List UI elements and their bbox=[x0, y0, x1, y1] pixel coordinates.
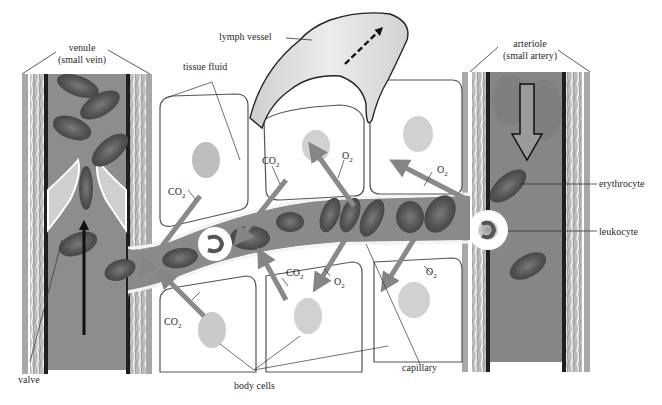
co2-label: CO2 bbox=[286, 267, 303, 283]
lower-body-cells bbox=[160, 258, 462, 372]
o2-label: O2 bbox=[334, 276, 345, 292]
arteriole-label: arteriole (small artery) bbox=[490, 38, 570, 62]
venule-label: venule (small vein) bbox=[42, 42, 122, 66]
capillary-exchange-diagram: venule (small vein) tissue fluid lymph v… bbox=[0, 0, 662, 405]
venule bbox=[22, 50, 152, 374]
arteriole bbox=[462, 47, 597, 372]
valve-label: valve bbox=[18, 374, 40, 386]
leukocyte-label: leukocyte bbox=[599, 226, 638, 238]
arteriole-label-line2: (small artery) bbox=[490, 50, 570, 62]
venule-label-line2: (small vein) bbox=[42, 54, 122, 66]
o2-label: O2 bbox=[426, 266, 437, 282]
lymph-vessel-label: lymph vessel bbox=[219, 31, 272, 43]
erythrocyte-label: erythrocyte bbox=[599, 178, 645, 190]
venule-label-line1: venule bbox=[42, 42, 122, 54]
co2-label: CO2 bbox=[262, 155, 279, 171]
o2-label: O2 bbox=[342, 150, 353, 166]
arteriole-label-line1: arteriole bbox=[490, 38, 570, 50]
co2-label: CO2 bbox=[164, 316, 181, 332]
capillary-label: capillary bbox=[402, 362, 437, 374]
body-cells-label: body cells bbox=[234, 380, 275, 392]
o2-label: O2 bbox=[437, 164, 448, 180]
co2-label: CO2 bbox=[168, 186, 185, 202]
tissue-fluid-label: tissue fluid bbox=[183, 61, 227, 73]
